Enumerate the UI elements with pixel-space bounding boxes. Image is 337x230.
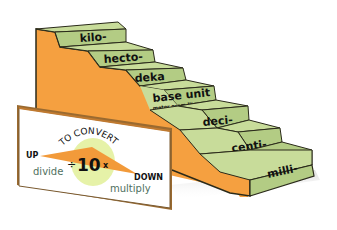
sign-up-label: UP <box>26 151 38 160</box>
sign-divide-label: divide <box>33 166 63 177</box>
sign-factor: 10 <box>77 155 101 175</box>
sign-multiply-symbol: x <box>103 161 109 170</box>
sign-multiply-label: multiply <box>110 183 151 194</box>
step-label-kilo: kilo- <box>79 30 107 45</box>
metric-staircase-diagram: kilo- hecto- deka base unit meter gram l… <box>0 0 337 230</box>
sign-divide-symbol: ÷ <box>67 158 76 171</box>
step-label-deka: deka <box>134 70 165 85</box>
sign-down-label: DOWN <box>134 173 163 182</box>
